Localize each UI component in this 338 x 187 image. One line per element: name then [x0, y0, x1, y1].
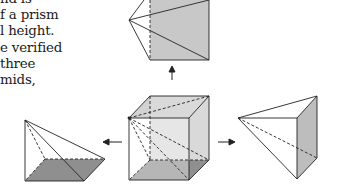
arrow-up-icon: [169, 66, 175, 80]
cube-decomposition-diagram: [0, 0, 338, 187]
center-cube: [128, 96, 209, 180]
left-pyramid: [25, 120, 105, 181]
arrow-right-icon: [218, 139, 235, 145]
right-pyramid: [238, 96, 317, 179]
arrow-left-icon: [103, 139, 122, 145]
top-pyramid: [129, 0, 209, 60]
